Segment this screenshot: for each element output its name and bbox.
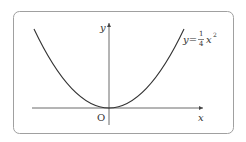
equation-lhs: y= [182,34,197,45]
origin-label: O [97,112,105,123]
y-axis-label: y [99,22,106,33]
diagram-canvas: y x O y= 1 4 x 2 [0,0,246,142]
fraction-numerator: 1 [199,30,203,38]
x-axis-label: x [198,112,204,123]
fraction-denominator: 4 [199,40,204,48]
equation-exponent: 2 [213,31,217,38]
equation-variable: x [206,34,212,45]
